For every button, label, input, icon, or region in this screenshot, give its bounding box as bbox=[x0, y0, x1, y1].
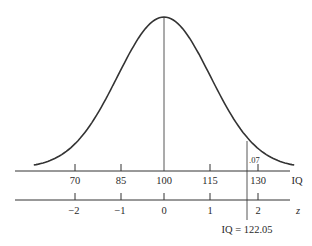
z-tick-label: 2 bbox=[255, 205, 260, 216]
iq-tick-label: 115 bbox=[202, 175, 217, 186]
z-tick-label: −1 bbox=[114, 205, 125, 216]
iq-tick-label: 85 bbox=[116, 175, 127, 186]
z-tick-label: 1 bbox=[207, 205, 212, 216]
tail-area-label: .07 bbox=[249, 155, 260, 165]
z-axis-ticks bbox=[75, 193, 258, 200]
normal-curve-chart: 70 85 100 115 130 IQ −2 −1 0 1 2 z .07 I… bbox=[0, 0, 312, 246]
iq-tick-label: 70 bbox=[70, 175, 81, 186]
iq-tick-label: 100 bbox=[156, 175, 172, 186]
z-tick-label: 0 bbox=[161, 205, 166, 216]
iq-tick-label: 130 bbox=[250, 175, 266, 186]
z-axis-label: z bbox=[295, 205, 300, 216]
z-tick-label: −2 bbox=[68, 205, 79, 216]
cutoff-label: IQ = 122.05 bbox=[221, 224, 272, 235]
iq-axis-label: IQ bbox=[291, 175, 302, 186]
iq-axis-ticks bbox=[75, 164, 258, 171]
